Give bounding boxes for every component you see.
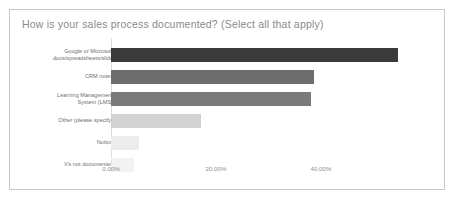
bar-learning-management-system	[111, 92, 311, 106]
bar-google-microsoft-docs	[111, 48, 398, 62]
axis-tick-mark-0	[111, 160, 112, 163]
axis-tick-label-0: 0.00%	[102, 165, 120, 172]
category-label-notion: Notion	[0, 139, 113, 146]
bar-crm-notes	[111, 70, 314, 84]
axis-tick-label-40: 40.00%	[311, 165, 332, 172]
category-label-its-not-documented: It's not documented	[0, 161, 113, 168]
bar-other-please-specify	[111, 114, 201, 128]
bar-notion	[111, 136, 139, 150]
axis-tick-label-20: 20.00%	[206, 165, 227, 172]
category-label-google-microsoft-docs: Google or Microsoft docs/spreadsheets/sl…	[0, 48, 113, 62]
bar-chart-plot-area: Google or Microsoft docs/spreadsheets/sl…	[10, 10, 446, 191]
category-label-learning-management-system: Learning Management System (LMS)	[0, 92, 113, 106]
chart-card: How is your sales process documented? (S…	[9, 9, 445, 190]
category-label-crm-notes: CRM notes	[0, 73, 113, 80]
category-label-other-please-specify: Other (please specify)	[0, 117, 113, 124]
